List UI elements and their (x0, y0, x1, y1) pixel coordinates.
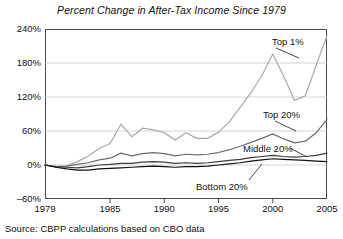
x-tick-label: 2000 (262, 203, 283, 214)
x-tick-label: 1985 (99, 203, 120, 214)
series-label: Top 1% (272, 36, 304, 47)
source-note: Source: CBPP calculations based on CBO d… (5, 223, 204, 234)
x-tick-label: 1990 (154, 203, 175, 214)
y-tick-label: 0% (1, 159, 41, 170)
leader-line (276, 48, 299, 58)
leader-line (275, 121, 296, 131)
x-tick-label: 2005 (316, 203, 337, 214)
chart-figure: Percent Change in After-Tax Income Since… (0, 0, 343, 239)
y-tick-label: 240% (1, 23, 41, 34)
series-label: Middle 20% (243, 143, 293, 154)
chart-title: Percent Change in After-Tax Income Since… (0, 4, 343, 16)
y-tick-label: 120% (1, 91, 41, 102)
series-line (45, 159, 327, 170)
x-tick-label: 1995 (208, 203, 229, 214)
y-tick-label: 60% (1, 125, 41, 136)
x-tick-label: 1979 (34, 203, 55, 214)
series-label: Bottom 20% (196, 181, 248, 192)
series-label: Top 20% (263, 109, 300, 120)
y-tick-label: 180% (1, 57, 41, 68)
leader-line (249, 164, 262, 180)
x-axis: 197919851990199520002005 (0, 203, 343, 217)
series-line (45, 153, 327, 168)
